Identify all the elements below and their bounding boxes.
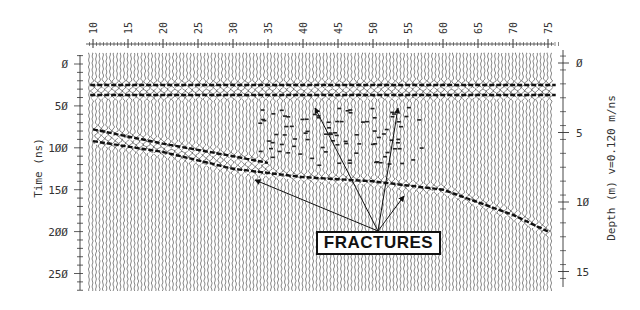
depth-tick-label: 1Ø	[576, 196, 590, 209]
top-tick-label: 30	[228, 22, 239, 34]
depth-axis-title: Depth (m) v=0.120 m/ns	[605, 95, 618, 241]
depth-tick-label: 5	[576, 127, 583, 140]
top-tick-label: 10	[88, 22, 99, 34]
top-tick-label: 50	[368, 22, 379, 34]
top-tick-label: 20	[158, 22, 169, 34]
top-tick-label: 15	[123, 22, 134, 34]
top-tick-label: 45	[333, 22, 344, 34]
time-tick-label: 2ØØ	[48, 226, 68, 239]
depth-tick-label: 15	[576, 266, 589, 279]
fractures-label: FRACTURES	[324, 233, 433, 253]
top-tick-label: 55	[403, 22, 414, 34]
top-tick-label: 35	[263, 22, 274, 34]
radar-traces	[88, 53, 553, 291]
top-tick-label: 70	[508, 22, 519, 34]
top-tick-label: 60	[438, 22, 449, 34]
time-tick-label: 15Ø	[48, 184, 68, 197]
time-tick-label: 5Ø	[55, 100, 69, 113]
time-axis-title: Time (ns)	[32, 138, 45, 198]
top-tick-label: 65	[473, 22, 484, 34]
depth-tick-label: Ø	[576, 57, 583, 70]
time-tick-label: 1ØØ	[48, 142, 68, 155]
time-tick-label: Ø	[61, 58, 68, 71]
fractures-callout: FRACTURES	[316, 231, 441, 255]
top-tick-label: 40	[298, 22, 309, 34]
depth-axis: Ø51Ø15	[558, 50, 590, 287]
top-tick-label: 25	[193, 22, 204, 34]
time-tick-label: 25Ø	[48, 268, 68, 281]
time-axis: Ø5Ø1ØØ15Ø2ØØ25Ø	[48, 55, 83, 290]
radargram-figure: 1015202530354045505560657075 Ø5Ø1ØØ15Ø2Ø…	[0, 0, 640, 310]
top-distance-ruler: 1015202530354045505560657075	[86, 22, 559, 48]
top-tick-label: 75	[543, 22, 554, 34]
